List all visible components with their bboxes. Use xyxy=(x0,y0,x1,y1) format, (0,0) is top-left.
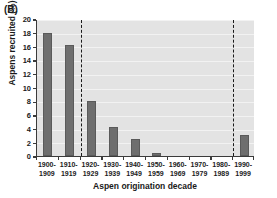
x-axis-tick-label: 1990-1999 xyxy=(228,160,258,178)
x-axis-tick-labels: 1900-19091910-19191920-19291930-19391940… xyxy=(36,160,254,180)
y-axis-ticks: 02468101214161820 xyxy=(0,20,36,157)
bar xyxy=(131,139,140,156)
y-axis-tick-label: 18 xyxy=(23,30,33,38)
bar-slot xyxy=(190,20,212,156)
x-axis-title: Aspen origination decade xyxy=(36,181,254,191)
bar-slot xyxy=(59,20,81,156)
bar-slot xyxy=(168,20,190,156)
bar-slot xyxy=(233,20,255,156)
y-axis-tick-label: 14 xyxy=(23,57,33,65)
bar-series xyxy=(37,20,254,156)
bar-slot xyxy=(81,20,103,156)
bar xyxy=(240,135,249,156)
y-axis-tick-label: 20 xyxy=(23,16,33,24)
bar-slot xyxy=(37,20,59,156)
bar-slot xyxy=(146,20,168,156)
bar xyxy=(43,33,52,156)
x-axis-tick-label-line1: 1990- xyxy=(234,161,252,168)
reference-line xyxy=(81,20,82,156)
y-axis-tick-label: 10 xyxy=(23,85,33,93)
bar xyxy=(109,127,118,156)
reference-line xyxy=(233,20,234,156)
y-axis-tick-label: 12 xyxy=(23,71,33,79)
bar xyxy=(152,153,161,156)
bar-slot xyxy=(124,20,146,156)
figure-panel-b: (B) Aspens recruited (%) 024681012141618… xyxy=(0,0,277,198)
y-axis-tick-label: 16 xyxy=(23,44,33,52)
bar-slot xyxy=(102,20,124,156)
bar xyxy=(87,101,96,156)
bar-slot xyxy=(211,20,233,156)
bar xyxy=(65,45,74,156)
plot-area xyxy=(36,20,254,157)
x-axis-tick-label-line2: 1999 xyxy=(228,169,258,178)
